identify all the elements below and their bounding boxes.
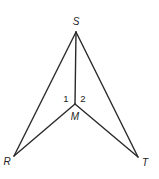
vertex-label-t: T <box>142 157 149 168</box>
segment-mt <box>75 104 138 157</box>
angle-label-2: 2 <box>80 93 85 104</box>
segment-mr <box>14 104 75 156</box>
vertex-label-m: M <box>71 111 80 122</box>
geometry-diagram: S M R T 1 2 <box>0 0 159 179</box>
angle-label-1: 1 <box>63 93 68 104</box>
segment-sm <box>75 32 76 104</box>
vertex-label-s: S <box>73 16 80 27</box>
vertex-label-r: R <box>3 156 10 167</box>
